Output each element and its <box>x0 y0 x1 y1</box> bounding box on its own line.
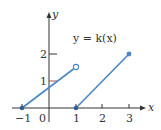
function-label: y = k(x) <box>72 32 117 45</box>
x-tick-label: −1 <box>15 112 31 125</box>
x-tick-label: 1 <box>73 112 80 125</box>
y-tick-label: 1 <box>40 75 47 88</box>
open-point <box>73 64 78 69</box>
segment-2 <box>76 54 129 108</box>
x-tick-label: 0 <box>39 112 46 125</box>
x-axis-arrow-icon <box>140 106 146 111</box>
y-axis-arrow-icon <box>47 12 52 18</box>
closed-point <box>127 52 132 57</box>
closed-point <box>20 106 25 111</box>
x-axis-label: x <box>148 101 155 114</box>
x-tick-label: 3 <box>126 112 133 125</box>
function-graph: −1 0 1 2 3 1 2 x y y = k(x) <box>0 0 161 130</box>
y-tick-label: 2 <box>40 48 47 61</box>
x-tick-label: 2 <box>99 112 106 125</box>
closed-point <box>74 106 79 111</box>
segment-1 <box>22 69 74 108</box>
y-axis-label: y <box>51 8 59 21</box>
